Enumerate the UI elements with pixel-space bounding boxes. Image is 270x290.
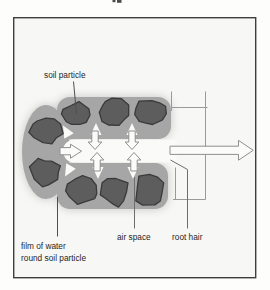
figure: soil particle air space root hair film o…	[0, 0, 270, 290]
soil-particle-blob	[135, 101, 167, 125]
soil-particle-label: soil particle	[44, 70, 86, 80]
air-space-label: air space	[117, 232, 151, 242]
soil-particle-blob	[136, 174, 164, 205]
film-of-water-label-line2: round soil particle	[21, 253, 86, 263]
diagram-canvas: soil particle air space root hair film o…	[0, 0, 270, 290]
cropped-caption-remnant	[113, 0, 122, 3]
film-of-water-label-line1: film of water	[21, 241, 66, 251]
root-hair-label: root hair	[172, 232, 203, 242]
